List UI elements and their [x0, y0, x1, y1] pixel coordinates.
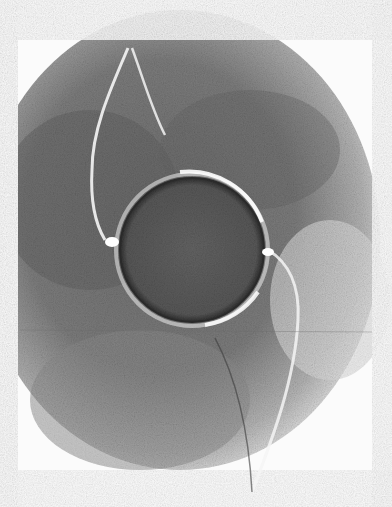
micrograph-image	[0, 0, 392, 507]
junction-left	[105, 237, 119, 247]
junction-right	[262, 248, 274, 256]
micrograph-svg	[0, 0, 392, 507]
